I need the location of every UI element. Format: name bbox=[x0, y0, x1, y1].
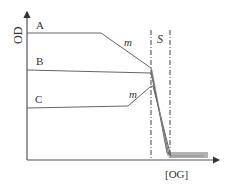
x-axis-label: [OG] bbox=[165, 168, 188, 180]
curve-a bbox=[27, 33, 208, 153]
y-axis-label: OD bbox=[11, 26, 25, 44]
curve-b bbox=[27, 70, 208, 155]
curve-extra bbox=[152, 70, 204, 156]
od-og-diagram: OD [OG] A B C m m S bbox=[0, 0, 230, 188]
curve-c bbox=[27, 86, 208, 157]
m-label-bottom: m bbox=[129, 88, 137, 100]
region-s-label: S bbox=[157, 32, 163, 46]
m-label-top: m bbox=[124, 36, 132, 48]
curve-c-label: C bbox=[35, 93, 42, 105]
curve-b-label: B bbox=[36, 55, 43, 67]
curve-a-label: A bbox=[36, 19, 44, 31]
